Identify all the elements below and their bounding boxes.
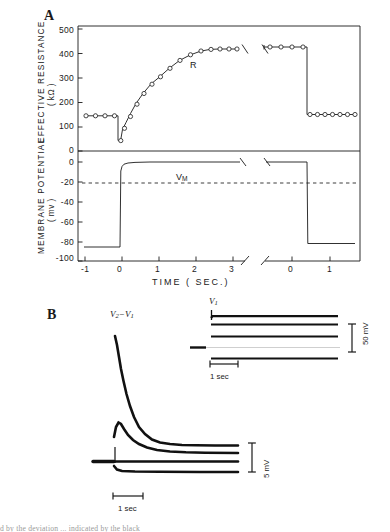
figure-root: A B EFFECTIVE RESISTANCE ( kΩ ) MEMBRANE… xyxy=(0,0,390,532)
time-axis-break xyxy=(241,256,269,265)
membrane-y-ticks xyxy=(78,162,83,261)
membrane-curve-offset xyxy=(266,162,355,244)
resistance-curve-onset xyxy=(84,49,237,141)
figure-linework xyxy=(0,0,390,532)
membrane-curve-onset xyxy=(84,162,240,247)
scalebar-1sec-top xyxy=(210,361,238,368)
scalebar-1sec-bottom xyxy=(113,493,143,500)
caption-fragment: d by the deviation ... indicated by the … xyxy=(0,524,390,532)
resistance-curve-break-left xyxy=(242,45,248,54)
resistance-y-ticks xyxy=(78,29,83,151)
resistance-curve-offset xyxy=(264,45,355,115)
resistance-curve-break-right xyxy=(262,45,268,54)
scalebar-50mv xyxy=(348,324,356,352)
resistance-data-markers xyxy=(84,45,357,143)
time-axis-ticks xyxy=(85,257,330,262)
scalebar-5mv xyxy=(248,443,256,472)
resistance-plot-frame xyxy=(78,26,360,151)
panelB-v1-traces xyxy=(211,316,338,358)
membrane-curve-break-left xyxy=(240,158,246,166)
